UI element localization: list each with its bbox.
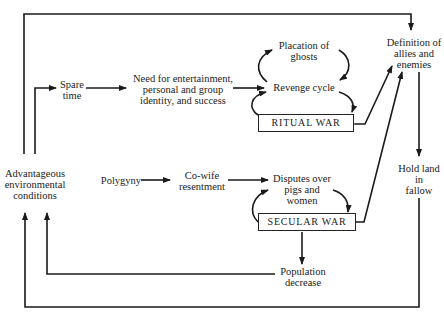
node-secular-war: SECULAR WAR	[258, 213, 356, 231]
node-definition-of-allies: Definition of allies and enemies	[383, 37, 444, 70]
node-population-decrease: Population decrease	[276, 266, 330, 288]
edge-population-to-advantageous	[47, 213, 275, 274]
edge-ritual-definition	[355, 66, 392, 124]
node-placation-of-ghosts: Placation of ghosts	[272, 40, 336, 62]
node-advantageous-conditions: Advantageous environmental conditions	[2, 168, 68, 201]
war-cycle-diagram: Advantageous environmental conditions Sp…	[0, 0, 444, 314]
node-polygyny: Polygyny	[100, 175, 142, 186]
edge-revenge-to-placation	[259, 50, 272, 82]
node-ritual-war: RITUAL WAR	[258, 114, 354, 132]
edge-placation-to-revenge	[339, 50, 349, 80]
node-spare-time: Spare time	[58, 79, 86, 101]
edge-revenge-to-ritual	[339, 92, 353, 112]
node-hold-land-in-fallow: Hold land in fallow	[396, 163, 442, 196]
node-co-wife-resentment: Co-wife resentment	[174, 170, 230, 192]
node-revenge-cycle: Revenge cycle	[268, 82, 340, 93]
node-need-for-entertainment: Need for entertainment, personal and gro…	[130, 73, 236, 106]
edge-ritual-to-revenge	[252, 92, 266, 115]
connector-lines	[0, 0, 444, 314]
node-disputes-over-pigs: Disputes over pigs and women	[268, 173, 336, 206]
edge-advantageous-to-spare-time	[35, 88, 56, 154]
edge-hold-land-to-advantageous	[25, 198, 419, 307]
